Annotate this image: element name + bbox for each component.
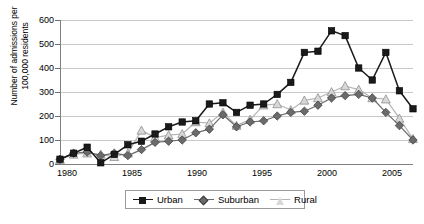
chart-legend: Urban Suburban Rural <box>125 190 305 209</box>
legend-label-urban: Urban <box>157 194 183 205</box>
series-urban <box>57 28 416 166</box>
chart-container: Number of admissions per 100,000 residen… <box>0 0 424 224</box>
series-suburban <box>56 90 417 163</box>
legend-item-rural[interactable]: Rural <box>270 194 317 205</box>
x-tick-label-2005: 2005 <box>375 169 409 178</box>
rural-series-icon <box>270 195 290 205</box>
urban-series-icon <box>133 195 153 205</box>
x-tick-label-1990: 1990 <box>180 169 214 178</box>
legend-label-rural: Rural <box>294 194 317 205</box>
legend-item-urban[interactable]: Urban <box>133 194 183 205</box>
x-tick-label-1995: 1995 <box>245 169 279 178</box>
x-tick-label-2000: 2000 <box>310 169 344 178</box>
suburban-series-icon <box>194 195 214 205</box>
x-tick-label-1980: 1980 <box>50 169 84 178</box>
x-tick-label-1985: 1985 <box>115 169 149 178</box>
legend-item-suburban[interactable]: Suburban <box>194 194 259 205</box>
legend-label-suburban: Suburban <box>218 194 259 205</box>
